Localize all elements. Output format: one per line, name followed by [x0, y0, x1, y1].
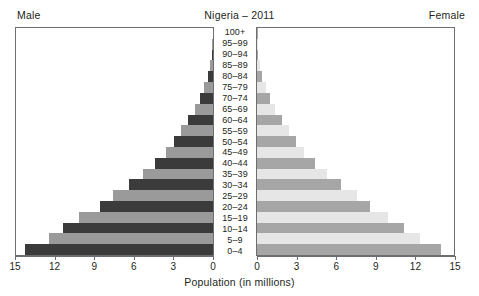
pyramid-row: [257, 179, 454, 190]
age-band-label: 0–4: [214, 245, 256, 256]
male-bar: [113, 190, 213, 201]
female-bar: [257, 71, 262, 82]
axis-tick-label: 15: [9, 261, 20, 272]
pyramid-row: [16, 28, 213, 39]
age-band-label: 15–19: [214, 212, 256, 223]
pyramid-row: [16, 82, 213, 93]
male-bar: [200, 93, 213, 104]
female-side-label: Female: [429, 9, 465, 21]
pyramid-row: [16, 115, 213, 126]
female-bar: [257, 223, 404, 234]
axis-tick: [455, 256, 456, 260]
pyramid-row: [16, 136, 213, 147]
axis-tick: [213, 256, 214, 260]
pyramid-row: [16, 233, 213, 244]
pyramid-row: [16, 158, 213, 169]
age-band-label: 50–54: [214, 136, 256, 147]
female-bar: [257, 50, 258, 61]
female-bar: [257, 169, 327, 180]
age-band-label: 85–89: [214, 60, 256, 71]
pyramid-row: [16, 125, 213, 136]
pyramid-row: [257, 71, 454, 82]
male-bar: [25, 244, 213, 255]
pyramid-row: [257, 93, 454, 104]
female-bar: [257, 82, 266, 93]
axis-tick: [94, 256, 95, 260]
age-band-label: 45–49: [214, 147, 256, 158]
axis-tick: [173, 256, 174, 260]
pyramid-row: [16, 244, 213, 255]
age-band-label: 60–64: [214, 114, 256, 125]
age-band-label: 90–94: [214, 49, 256, 60]
pyramid-row: [257, 244, 454, 255]
pyramid-row: [16, 60, 213, 71]
pyramid-row: [16, 169, 213, 180]
male-bar: [79, 212, 213, 223]
axis-tick-label: 9: [373, 261, 379, 272]
female-bar: [257, 125, 289, 136]
axis-tick-label: 0: [210, 261, 216, 272]
male-axis-line: [15, 256, 213, 257]
population-pyramid-chart: Male Nigeria – 2011 Female 100+95–9990–9…: [0, 0, 479, 296]
axis-tick: [415, 256, 416, 260]
female-bar: [257, 233, 420, 244]
axis-tick-label: 12: [49, 261, 60, 272]
age-band-label: 70–74: [214, 92, 256, 103]
female-axis-line: [257, 256, 455, 257]
female-bar: [257, 147, 304, 158]
axis-tick-label: 6: [131, 261, 137, 272]
age-band-label: 5–9: [214, 234, 256, 245]
age-band-label: 95–99: [214, 38, 256, 49]
pyramid-row: [257, 115, 454, 126]
pyramid-row: [257, 39, 454, 50]
male-bar: [155, 158, 213, 169]
axis-tick: [257, 256, 258, 260]
axis-tick-label: 0: [254, 261, 260, 272]
pyramid-row: [257, 190, 454, 201]
pyramid-row: [16, 147, 213, 158]
axis-tick: [15, 256, 16, 260]
female-bar: [257, 190, 357, 201]
pyramid-row: [257, 147, 454, 158]
pyramid-row: [257, 223, 454, 234]
female-bar: [257, 93, 270, 104]
female-bar: [257, 115, 282, 126]
age-band-label: 65–69: [214, 103, 256, 114]
axis-tick-label: 3: [294, 261, 300, 272]
pyramid-row: [16, 39, 213, 50]
male-bar: [204, 82, 213, 93]
male-bar: [174, 136, 213, 147]
age-band-label: 20–24: [214, 202, 256, 213]
female-bar: [257, 158, 315, 169]
axis-tick: [376, 256, 377, 260]
female-bar: [257, 212, 388, 223]
axis-tick-label: 12: [410, 261, 421, 272]
pyramid-row: [16, 104, 213, 115]
pyramid-row: [257, 169, 454, 180]
male-bar: [195, 104, 213, 115]
age-band-axis: 100+95–9990–9485–8980–8475–7970–7465–696…: [213, 27, 257, 256]
pyramid-row: [16, 71, 213, 82]
male-bar: [188, 115, 213, 126]
axis-tick-label: 3: [171, 261, 177, 272]
male-bar: [100, 201, 213, 212]
axis-tick: [297, 256, 298, 260]
age-band-label: 30–34: [214, 180, 256, 191]
pyramid-row: [257, 82, 454, 93]
pyramid-row: [257, 212, 454, 223]
axis-tick: [336, 256, 337, 260]
age-band-label: 25–29: [214, 191, 256, 202]
male-x-axis: 15129630: [15, 256, 213, 278]
axis-tick-label: 9: [91, 261, 97, 272]
pyramid-row: [257, 158, 454, 169]
pyramid-row: [16, 190, 213, 201]
male-plot-panel: [15, 27, 213, 256]
female-bar: [257, 179, 341, 190]
female-bar: [257, 60, 260, 71]
age-band-label: 100+: [214, 27, 256, 38]
pyramid-row: [16, 93, 213, 104]
male-bar: [129, 179, 213, 190]
pyramid-row: [257, 136, 454, 147]
pyramid-row: [16, 50, 213, 61]
pyramid-row: [257, 233, 454, 244]
